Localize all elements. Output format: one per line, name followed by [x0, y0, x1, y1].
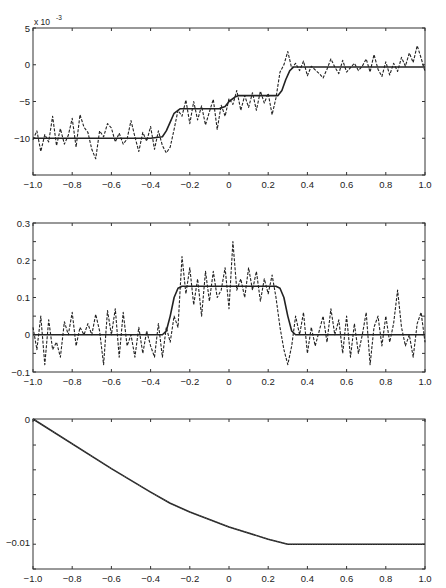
- x-tick-label: 0.6: [340, 179, 353, 190]
- y-tick-label: −10: [14, 133, 30, 144]
- y-tick-label: 0: [25, 329, 30, 340]
- y-tick-label: 0: [25, 59, 30, 70]
- x-tick-label: 0.8: [379, 179, 392, 190]
- x-tick-label: −1.0: [24, 179, 43, 190]
- y-tick-label: 0.2: [17, 255, 30, 266]
- x-tick-label: −0.4: [141, 179, 160, 190]
- exponent-power: -3: [56, 14, 62, 21]
- x-tick-label: −0.4: [141, 573, 160, 584]
- y-tick-label: 0.3: [17, 218, 30, 229]
- y-tick-label: −0.1: [11, 367, 30, 378]
- x-tick-label: 1.0: [418, 573, 431, 584]
- top-chart-panel: −1.0−0.8−0.6−0.4−0.200.20.40.60.81.050−5…: [14, 23, 432, 191]
- y-tick-label: 5: [25, 23, 30, 34]
- y-tick-label: −0.01: [6, 537, 30, 548]
- top-chart-exponent-label: x 10 -3: [34, 14, 62, 27]
- x-tick-label: 0.8: [379, 573, 392, 584]
- x-tick-label: 0.4: [301, 376, 314, 387]
- x-tick-label: −0.6: [102, 376, 121, 387]
- x-tick-label: −0.2: [180, 179, 199, 190]
- axes-frame: [33, 419, 425, 569]
- x-tick-label: −0.2: [180, 573, 199, 584]
- dotted-series-line: [33, 419, 425, 544]
- solid-series-line: [33, 67, 425, 138]
- middle-chart-panel: −1.0−0.8−0.6−0.4−0.200.20.40.60.81.00.30…: [11, 218, 431, 388]
- x-tick-label: 0: [226, 376, 231, 387]
- x-tick-label: −0.8: [63, 179, 82, 190]
- y-tick-label: 0: [25, 414, 30, 425]
- x-tick-label: 0.4: [301, 573, 314, 584]
- x-tick-label: 0.6: [340, 376, 353, 387]
- x-tick-label: −0.2: [180, 376, 199, 387]
- x-tick-label: −0.8: [63, 376, 82, 387]
- y-tick-label: 0.1: [17, 292, 30, 303]
- x-tick-label: 0.2: [262, 573, 275, 584]
- axes-frame: [33, 223, 425, 372]
- exponent-base: x 10: [34, 17, 50, 27]
- x-tick-label: 1.0: [418, 179, 431, 190]
- x-tick-label: 0.8: [379, 376, 392, 387]
- x-tick-label: 1.0: [418, 376, 431, 387]
- dashed-series-line: [33, 242, 425, 365]
- x-tick-label: −0.8: [63, 573, 82, 584]
- solid-series-line: [33, 419, 425, 544]
- x-tick-label: 0.6: [340, 573, 353, 584]
- x-tick-label: −1.0: [24, 376, 43, 387]
- x-tick-label: −0.4: [141, 376, 160, 387]
- bottom-chart-panel: −1.0−0.8−0.6−0.4−0.200.20.40.60.81.00−0.…: [6, 414, 432, 585]
- x-tick-label: −1.0: [24, 573, 43, 584]
- x-tick-label: 0.2: [262, 179, 275, 190]
- x-tick-label: 0: [226, 179, 231, 190]
- solid-series-line: [33, 286, 425, 335]
- x-tick-label: 0.4: [301, 179, 314, 190]
- figure: −1.0−0.8−0.6−0.4−0.200.20.40.60.81.050−5…: [0, 0, 446, 588]
- x-tick-label: 0.2: [262, 376, 275, 387]
- y-tick-label: −5: [19, 96, 30, 107]
- x-tick-label: 0: [226, 573, 231, 584]
- x-tick-label: −0.6: [102, 573, 121, 584]
- x-tick-label: −0.6: [102, 179, 121, 190]
